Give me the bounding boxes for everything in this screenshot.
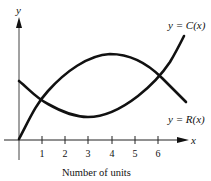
x-tick-label-5: 5 bbox=[133, 149, 138, 159]
y-axis-arrow-icon bbox=[16, 17, 22, 28]
x-axis-label: x bbox=[191, 135, 196, 146]
x-tick-label-3: 3 bbox=[86, 149, 91, 159]
x-tick-label-2: 2 bbox=[63, 149, 68, 159]
x-tick-label-4: 4 bbox=[110, 149, 115, 159]
x-axis-arrow-icon bbox=[177, 137, 189, 143]
cost-curve bbox=[19, 36, 184, 117]
cost-curve-label: y = C(x) bbox=[168, 20, 205, 31]
x-tick-label-1: 1 bbox=[40, 149, 45, 159]
revenue-curve-label: y = R(x) bbox=[168, 114, 205, 125]
y-axis-label: y bbox=[16, 5, 21, 16]
x-tick-label-6: 6 bbox=[156, 149, 161, 159]
x-axis-title: Number of units bbox=[62, 168, 131, 179]
revenue-curve bbox=[19, 54, 186, 139]
